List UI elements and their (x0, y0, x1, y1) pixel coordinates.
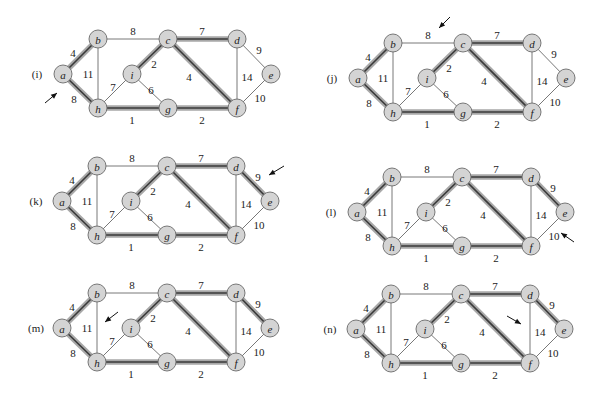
edge-weight-bc: 8 (425, 29, 431, 41)
edge-weight-ci: 2 (150, 185, 156, 197)
edge-weight-df: 14 (535, 326, 547, 338)
graph-panel-l: (l)48811274914107612abcdefghi (326, 163, 574, 264)
edge-weight-bh: 11 (378, 72, 389, 84)
edge-weight-ef: 10 (254, 219, 266, 231)
edge-weight-hi: 7 (403, 336, 409, 348)
node-label: b (390, 38, 396, 50)
edge-weight-gf: 2 (198, 368, 204, 380)
node-a: a (53, 192, 71, 210)
node-label: b (95, 34, 101, 46)
edge-weight-hi: 7 (405, 85, 411, 97)
node-label: h (388, 358, 394, 370)
pointer-arrow-icon (561, 233, 574, 242)
node-i: i (418, 69, 436, 87)
node-label: i (425, 73, 428, 85)
edge-weight-cd: 7 (198, 152, 204, 164)
node-c: c (159, 30, 177, 48)
node-a: a (348, 203, 366, 221)
edge-weight-ab: 4 (69, 174, 75, 186)
mst-edge-cf (462, 177, 531, 246)
node-label: e (268, 323, 273, 335)
edge-weight-ah: 8 (364, 348, 370, 360)
edge-weight-hg: 1 (128, 368, 134, 380)
node-label: g (458, 358, 464, 370)
node-label: c (165, 161, 170, 173)
edge-weight-ci: 2 (151, 58, 157, 70)
node-label: c (166, 34, 171, 46)
graph-panel-j: (j)48811274914107612abcdefghi (327, 17, 575, 130)
node-label: h (94, 357, 100, 369)
edge-weight-gf: 2 (493, 252, 499, 264)
node-e: e (555, 320, 573, 338)
edge-weight-ah: 8 (70, 220, 76, 232)
edge-weight-gf: 2 (492, 369, 498, 381)
edge-weight-df: 14 (241, 325, 253, 337)
node-label: h (95, 103, 101, 115)
edge-weight-ef: 10 (549, 230, 561, 242)
node-i: i (417, 203, 435, 221)
node-label: h (390, 107, 396, 119)
kruskal-figure: (i)48811274914107612abcdefghi(j)48811274… (0, 0, 600, 398)
edge-weight-gf: 2 (494, 118, 500, 130)
node-d: d (522, 168, 540, 186)
node-label: e (562, 324, 567, 336)
pointer-arrow-icon (507, 316, 521, 324)
node-i: i (122, 319, 140, 337)
panel-label: (n) (324, 323, 337, 336)
node-b: b (382, 285, 400, 303)
edge-weight-cf: 4 (186, 71, 192, 83)
node-h: h (88, 353, 106, 371)
edge-weight-ef: 10 (254, 346, 266, 358)
edge-weight-hg: 1 (423, 252, 429, 264)
graph-panel-m: (m)48811274914107612abcdefghi (28, 279, 279, 380)
panel-label: (l) (326, 206, 337, 219)
edge-weight-ah: 8 (366, 97, 372, 109)
edge-weight-df: 14 (241, 198, 253, 210)
edge-weight-cf: 4 (481, 75, 487, 87)
pointer-arrow-icon (45, 93, 57, 103)
node-f: f (228, 99, 246, 117)
edge-weight-hg: 1 (129, 114, 135, 126)
edge-weight-ci: 2 (446, 62, 452, 74)
graph-panel-k: (k)48811274914107612abcdefghi (30, 152, 284, 253)
node-label: a (353, 324, 359, 336)
node-label: h (389, 241, 395, 253)
panel-label: (j) (327, 72, 338, 85)
node-label: b (94, 288, 100, 300)
panel-label: (i) (32, 68, 43, 81)
node-e: e (557, 69, 575, 87)
node-d: d (227, 284, 245, 302)
node-f: f (523, 103, 541, 121)
edge-weight-hi: 7 (109, 208, 115, 220)
node-f: f (522, 237, 540, 255)
edge-weight-bh: 11 (377, 206, 388, 218)
node-g: g (159, 99, 177, 117)
node-g: g (158, 226, 176, 244)
edge-weight-cf: 4 (479, 326, 485, 338)
node-label: i (129, 323, 132, 335)
node-f: f (521, 354, 539, 372)
node-d: d (228, 30, 246, 48)
node-label: i (130, 69, 133, 81)
edge-weight-cf: 4 (480, 209, 486, 221)
edge-weight-ig: 6 (441, 339, 447, 351)
edge-weight-cd: 7 (492, 280, 498, 292)
node-i: i (416, 320, 434, 338)
edge-weight-de: 9 (255, 298, 261, 310)
edge-weight-ig: 6 (442, 222, 448, 234)
edge-weight-ah: 8 (71, 93, 77, 105)
panel-label: (m) (28, 322, 44, 335)
edge-weight-ab: 4 (69, 301, 75, 313)
node-g: g (454, 103, 472, 121)
pointer-arrow-icon (439, 17, 450, 28)
node-label: c (459, 289, 464, 301)
edge-weight-de: 9 (550, 182, 556, 194)
edge-weight-de: 9 (256, 44, 262, 56)
edge-weight-de: 9 (551, 48, 557, 60)
node-d: d (227, 157, 245, 175)
node-e: e (261, 319, 279, 337)
node-a: a (347, 320, 365, 338)
node-g: g (453, 237, 471, 255)
node-b: b (88, 157, 106, 175)
node-label: e (564, 73, 569, 85)
